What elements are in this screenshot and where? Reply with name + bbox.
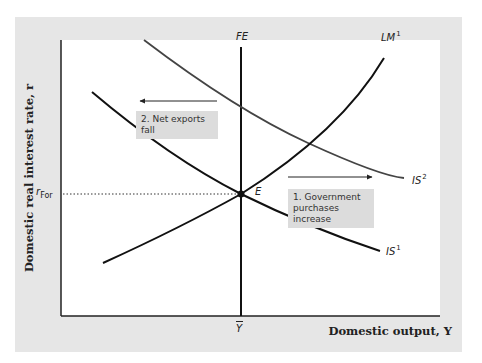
y-axis-label: Domestic real interest rate, r <box>22 43 38 313</box>
is2-label-sup: 2 <box>422 173 426 181</box>
lm1-curve <box>103 58 384 263</box>
point-e-label: E <box>255 186 261 197</box>
fe-label: FE <box>236 31 248 42</box>
is2-curve <box>144 40 404 178</box>
ybar-overline <box>236 321 243 322</box>
rfor-subscript: For <box>40 191 53 200</box>
gov-purchases-note-line1: 1. Government <box>293 192 369 203</box>
net-exports-note: 2. Net exports fall <box>136 111 218 139</box>
ybar-text: Y <box>236 323 242 334</box>
gov-purchases-note-line2: purchases increase <box>293 203 369 225</box>
lm1-label-text: LM <box>381 32 395 43</box>
lm1-label: LM1 <box>381 30 401 43</box>
fe-label-text: FE <box>236 31 248 42</box>
is1-label-text: IS <box>386 246 395 257</box>
equilibrium-point <box>238 191 245 198</box>
ybar-label: Y <box>236 321 243 334</box>
x-axis-label: Domestic output, Y <box>328 324 452 338</box>
is2-label-text: IS <box>412 175 421 186</box>
diagram-canvas <box>0 0 482 363</box>
is1-label-sup: 1 <box>396 244 400 252</box>
gov-purchases-note: 1. Governmentpurchases increase <box>288 189 374 228</box>
lm1-label-sup: 1 <box>396 30 400 38</box>
is1-label: IS1 <box>386 244 401 257</box>
rfor-label: rFor <box>36 186 53 200</box>
is2-label: IS2 <box>412 173 427 186</box>
